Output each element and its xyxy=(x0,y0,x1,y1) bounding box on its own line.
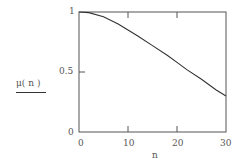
x-tick-label-0: 0 xyxy=(78,139,84,148)
y-tick-label-1: 1 xyxy=(69,7,75,16)
y-axis-label-underline xyxy=(16,92,46,93)
y-axis-label: μ( n ) xyxy=(16,78,40,88)
y-tick-label-0: 0 xyxy=(68,128,74,137)
x-tick-label-30: 30 xyxy=(220,139,231,148)
plot-frame xyxy=(79,12,226,132)
x-tick-label-10: 10 xyxy=(123,139,134,148)
y-tick-label-0.5: 0.5 xyxy=(59,67,73,76)
x-axis-label: n xyxy=(152,151,158,160)
x-tick-label-20: 20 xyxy=(172,139,183,148)
series-mu-line xyxy=(79,12,226,96)
